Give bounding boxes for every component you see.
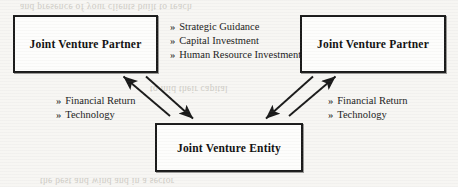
list-item-label: Capital Investment <box>179 34 259 48</box>
list-item-label: Strategic Guidance <box>179 20 259 34</box>
list-item: » Capital Investment <box>170 34 301 48</box>
list-item-label: Financial Return <box>337 94 407 108</box>
list-item-label: Technology <box>337 108 386 122</box>
node-joint-venture-partner-right: Joint Venture Partner <box>300 15 446 73</box>
contribution-label-group-center: » Strategic Guidance » Capital Investmen… <box>170 20 301 62</box>
node-joint-venture-partner-left: Joint Venture Partner <box>13 15 158 73</box>
arrow-partner-right-to-entity <box>266 77 313 119</box>
return-label-group-left: » Financial Return » Technology <box>56 94 136 122</box>
list-item-label: Technology <box>65 108 114 122</box>
arrow-partner-left-to-entity <box>146 77 193 119</box>
bullet-icon: » <box>170 34 175 48</box>
bullet-icon: » <box>170 20 175 34</box>
list-item: » Technology <box>56 108 136 122</box>
node-joint-venture-entity: Joint Venture Entity <box>155 123 303 172</box>
list-item: » Strategic Guidance <box>170 20 301 34</box>
return-label-group-right: » Financial Return » Technology <box>328 94 408 122</box>
joint-venture-diagram: and presence of your clients built to re… <box>0 0 458 187</box>
list-item: » Financial Return <box>56 94 136 108</box>
list-item: » Technology <box>328 108 408 122</box>
node-label-partner-left: Joint Venture Partner <box>30 38 142 50</box>
bullet-icon: » <box>328 94 333 108</box>
bullet-icon: » <box>328 108 333 122</box>
list-item-label: Human Resource Investment <box>179 48 301 62</box>
bullet-icon: » <box>56 94 61 108</box>
bullet-icon: » <box>56 108 61 122</box>
node-label-partner-right: Joint Venture Partner <box>317 38 429 50</box>
node-label-entity: Joint Venture Entity <box>177 142 281 154</box>
list-item: » Financial Return <box>328 94 408 108</box>
list-item: » Human Resource Investment <box>170 48 301 62</box>
list-item-label: Financial Return <box>65 94 135 108</box>
bullet-icon: » <box>170 48 175 62</box>
